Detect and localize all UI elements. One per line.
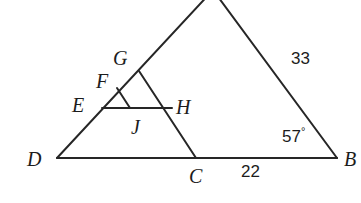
label-G: G	[113, 48, 127, 68]
side-AB	[213, 0, 337, 158]
length-label-AB: 33	[291, 50, 310, 67]
angle-label-B: 57°	[282, 126, 305, 145]
angle-value: 57	[282, 127, 301, 146]
geometry-diagram-canvas: G F E H J D C B 33 22 57°	[0, 0, 361, 203]
label-C: C	[189, 166, 202, 186]
label-H: H	[176, 97, 190, 117]
label-E: E	[72, 95, 84, 115]
label-B: B	[344, 149, 356, 169]
label-D: D	[27, 149, 41, 169]
length-label-CB: 22	[241, 163, 260, 180]
label-F: F	[96, 71, 108, 91]
label-J: J	[131, 117, 140, 137]
degree-symbol: °	[301, 125, 305, 137]
segment-FJ	[117, 88, 130, 108]
